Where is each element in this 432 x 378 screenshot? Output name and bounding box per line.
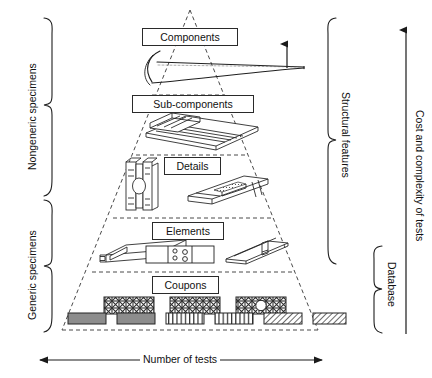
tier-label-text: Components (160, 31, 220, 43)
tier-label-text: Coupons (164, 279, 206, 291)
bracket-nongeneric-specimens (44, 18, 52, 196)
coupon-hatched-a (264, 313, 302, 324)
specimen-bolted-joint-plate (146, 246, 214, 263)
specimen-bolted-fitting (126, 158, 158, 210)
tier-label-text: Elements (166, 225, 210, 237)
bracket-label-nongeneric-specimens: Nongeneric specimens (26, 63, 38, 170)
tier-label-details[interactable]: Details (164, 157, 221, 175)
coupon-laminate-stack-b (170, 297, 220, 314)
tier-label-text: Sub-components (153, 98, 232, 110)
specimen-aircraft-wing-section (145, 51, 304, 85)
bracket-database (374, 246, 382, 333)
bracket-label-text: Generic specimens (26, 230, 38, 320)
tier-label-components[interactable]: Components (142, 28, 238, 46)
coupon-solid-b (117, 313, 155, 324)
bracket-label-text: Nongeneric specimens (26, 63, 38, 170)
bracket-label-structural-features: Structural features (340, 92, 352, 178)
diagram-vector-layer (0, 0, 432, 378)
specimen-stiffened-panel (146, 113, 258, 150)
tier-label-text: Details (176, 160, 208, 172)
bracket-label-text: Database (386, 262, 398, 307)
coupon-laminate-stack-a (104, 297, 154, 314)
tier-label-sub-components[interactable]: Sub-components (132, 95, 254, 113)
tier-label-coupons[interactable]: Coupons (152, 276, 219, 294)
coupon-ribbed-b (215, 313, 253, 324)
axis-label-number-of-tests: Number of tests (140, 353, 220, 365)
bracket-structural-features (328, 18, 336, 264)
coupon-strips (68, 313, 346, 324)
axis-label-text: Number of tests (143, 353, 217, 365)
specimen-hat-stiffener-joint (188, 176, 268, 204)
bracket-label-text: Structural features (340, 92, 352, 178)
tier-label-elements[interactable]: Elements (152, 222, 224, 240)
coupon-laminate-stacks (104, 297, 286, 314)
axis-label-text: Cost and complexity of tests (414, 110, 426, 241)
specimen-angle-stiffener (226, 238, 288, 264)
bracket-label-generic-specimens: Generic specimens (26, 230, 38, 320)
bracket-label-database: Database (386, 262, 398, 307)
coupon-ribbed-a (166, 313, 204, 324)
axis-label-cost-complexity: Cost and complexity of tests (414, 110, 426, 241)
bracket-generic-specimens (44, 200, 52, 332)
coupon-open-hole-laminate (236, 297, 286, 314)
coupon-hatched-b (313, 313, 346, 324)
coupon-solid-a (68, 313, 106, 324)
test-pyramid-diagram: Components Sub-components Details Elemen… (0, 0, 432, 378)
